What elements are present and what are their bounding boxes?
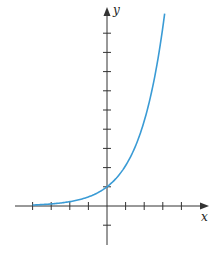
y-axis-label: y (112, 3, 120, 17)
exponential-graph: x y (0, 0, 223, 262)
y-axis-arrow-icon (104, 7, 111, 16)
x-axis-label: x (201, 210, 208, 224)
axes (15, 7, 209, 245)
exponential-curve (33, 14, 165, 205)
x-axis-arrow-icon (200, 203, 209, 210)
